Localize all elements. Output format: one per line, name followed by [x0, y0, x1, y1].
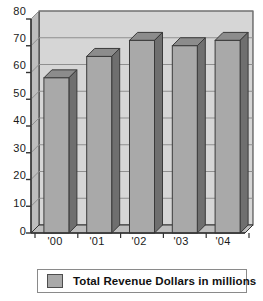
bar-side-face	[69, 70, 77, 233]
x-axis-tick-00: '00	[40, 236, 70, 247]
bar-side-face	[155, 32, 163, 233]
bar-front-face	[87, 56, 112, 233]
x-axis-tick-04: '04	[208, 236, 238, 247]
bar-chart: 80 70 60 50 40 30 20 10 0	[0, 0, 263, 301]
bar-front-face	[172, 46, 197, 233]
bar-side-face	[240, 32, 248, 233]
x-axis-tick-01: '01	[82, 236, 112, 247]
plot-area: 80 70 60 50 40 30 20 10 0	[0, 0, 263, 265]
bar-front-face	[44, 78, 69, 233]
bar-03	[172, 38, 205, 233]
legend-label-total-revenue: Total Revenue Dollars in millions	[73, 275, 256, 287]
bar-01	[87, 48, 120, 233]
bar-04	[215, 32, 248, 233]
legend-swatch-total-revenue	[47, 274, 63, 288]
bar-side-face	[197, 38, 205, 233]
y-axis-tick-marks	[26, 19, 31, 233]
bar-02	[130, 32, 163, 233]
bar-side-face	[112, 48, 120, 233]
chart-legend: Total Revenue Dollars in millions	[37, 269, 247, 293]
x-axis-tick-02: '02	[124, 236, 154, 247]
plot-graphics	[0, 0, 263, 265]
x-axis-tick-03: '03	[166, 236, 196, 247]
bar-00	[44, 70, 77, 233]
bar-front-face	[215, 40, 240, 233]
bar-front-face	[130, 40, 155, 233]
x-axis-labels: '00 '01 '02 '03 '04	[0, 236, 263, 254]
